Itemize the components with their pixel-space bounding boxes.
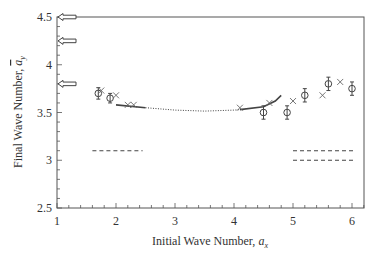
y-tick-label: 3.5	[37, 106, 52, 120]
x-tick-label: 2	[113, 214, 119, 228]
x-axis-label: Initial Wave Number, ax	[152, 234, 268, 250]
cross-marker	[237, 105, 243, 111]
arrow-annotations	[58, 14, 76, 88]
cross-marker	[113, 92, 119, 98]
plot-frame	[57, 17, 364, 208]
cross-marker	[290, 98, 296, 104]
y-tick-label: 3	[46, 153, 52, 167]
y-tick-label: 4	[46, 58, 52, 72]
y-tick-label: 2.5	[37, 201, 52, 215]
x-tick-label: 1	[54, 214, 60, 228]
x-tick-label: 4	[231, 214, 237, 228]
y-tick-label: 4.5	[37, 10, 52, 24]
left-arrow-icon	[58, 14, 76, 21]
circle-marker-with-errorbar	[302, 89, 309, 102]
left-arrow-icon	[58, 37, 76, 44]
circle-marker-with-errorbar	[107, 93, 114, 103]
curves	[92, 95, 355, 160]
cross-marker	[125, 102, 131, 108]
chart: 1234562.533.544.5 Initial Wave Number, a…	[0, 0, 375, 261]
dotted-line	[146, 108, 240, 111]
axis-ticks: 1234562.533.544.5	[37, 10, 364, 228]
cross-marker	[320, 92, 326, 98]
left-arrow-icon	[58, 80, 76, 87]
x-tick-label: 5	[290, 214, 296, 228]
circle-marker-with-errorbar	[325, 77, 332, 90]
cross-marker	[337, 79, 343, 85]
x-tick-label: 6	[349, 214, 355, 228]
data-markers	[95, 77, 355, 119]
x-tick-label: 3	[172, 214, 178, 228]
circle-marker-with-errorbar	[284, 106, 291, 119]
solid-line	[240, 95, 281, 109]
plot-border	[57, 17, 364, 208]
circle-marker-with-errorbar	[349, 82, 356, 95]
y-axis-label: Final Wave Number, ay	[11, 56, 27, 168]
